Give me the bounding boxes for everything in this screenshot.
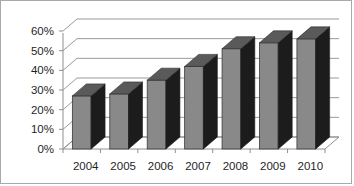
x-axis-tick-label: 2004 [73,160,99,172]
x-axis-tick-label: 2008 [223,160,249,172]
bar-side-face [203,54,217,149]
gridline-connector [63,58,77,70]
y-axis-tick-label: 30% [31,84,54,96]
gridline-connector [63,78,77,90]
bar-front-face [297,39,316,149]
y-axis-tick-label: 40% [31,64,54,76]
bar-front-face [222,49,241,149]
bar-front-face [147,80,166,149]
y-axis-tick-label: 0% [37,143,54,155]
gridline-connector [63,19,77,31]
gridline-connector [63,39,77,51]
y-axis-labels: 0%10%20%30%40%50%60% [31,25,54,155]
bar-front-face [260,43,279,149]
y-axis-tick-label: 10% [31,123,54,135]
x-axis-labels: 2004200520062007200820092010 [73,160,323,172]
bar-side-face [166,68,180,149]
x-axis-tick-label: 2009 [260,160,286,172]
y-axis-tick-label: 50% [31,45,54,57]
bar-side-face [316,27,330,149]
y-axis-tick-label: 60% [31,25,54,37]
bar-front-face [72,96,91,149]
x-axis-tick-label: 2006 [148,160,174,172]
bar-side-face [278,31,292,149]
x-axis-tick-label: 2005 [110,160,136,172]
bar-series [72,27,329,149]
bar-front-face [185,66,204,149]
bar-front-face [110,94,129,149]
y-axis-tick-label: 20% [31,104,54,116]
x-axis-tick-label: 2007 [185,160,211,172]
x-axis-tick-label: 2010 [297,160,323,172]
bar-side-face [241,37,255,149]
chart-container: 0%10%20%30%40%50%60% 2004200520062007200… [0,0,352,184]
bar-chart-3d: 0%10%20%30%40%50%60% 2004200520062007200… [1,1,353,185]
